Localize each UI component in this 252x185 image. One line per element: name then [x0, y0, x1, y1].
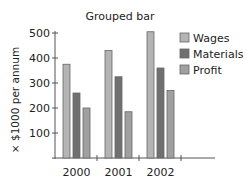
x-tick-label: 2000: [63, 166, 91, 179]
bar-profit-2001: [125, 112, 132, 158]
legend-swatch-profit: [180, 65, 189, 74]
bar-wages-2001: [105, 51, 112, 159]
legend-swatch-materials: [180, 49, 189, 58]
y-tick-label: 500: [29, 27, 50, 40]
legend-label-wages: Wages: [193, 32, 230, 45]
chart-title: Grouped bar: [86, 10, 155, 23]
bar-materials-2001: [115, 77, 122, 158]
y-tick-label: 300: [29, 77, 50, 90]
x-tick-label: 2002: [147, 166, 175, 179]
bars: 200020012002: [63, 32, 175, 179]
y-tick-label: 200: [29, 102, 50, 115]
y-axis-label: × $1000 per annum: [9, 47, 21, 153]
legend-label-materials: Materials: [193, 48, 244, 61]
bar-profit-2002: [167, 91, 174, 159]
bar-profit-2000: [83, 108, 90, 158]
bar-materials-2002: [157, 68, 164, 158]
legend: WagesMaterialsProfit: [180, 32, 244, 77]
bar-materials-2000: [73, 93, 80, 158]
bar-wages-2000: [63, 64, 70, 158]
legend-swatch-wages: [180, 33, 189, 42]
y-tick-label: 100: [29, 127, 50, 140]
bar-wages-2002: [147, 32, 154, 158]
grouped-bar-chart: Grouped bar × $1000 per annum 1002003004…: [0, 0, 252, 185]
y-tick-label: 400: [29, 52, 50, 65]
x-tick-label: 2001: [105, 166, 133, 179]
legend-label-profit: Profit: [193, 64, 222, 77]
